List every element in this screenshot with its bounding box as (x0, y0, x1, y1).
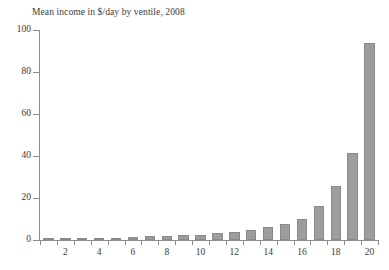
x-axis-tick (141, 241, 142, 245)
bar (331, 186, 341, 240)
bar (297, 219, 307, 240)
y-axis-tick-label: 0 (1, 235, 31, 245)
bar (77, 238, 87, 240)
bar (43, 238, 53, 240)
bar (178, 235, 188, 240)
x-axis-tick (327, 241, 328, 245)
x-axis-tick (158, 241, 159, 245)
x-axis-tick (91, 241, 92, 245)
y-axis-tick (33, 198, 39, 199)
bar (246, 230, 256, 240)
y-axis-tick (33, 72, 39, 73)
x-axis-tick-label: 20 (360, 247, 380, 257)
bar (195, 235, 205, 240)
x-axis-tick-label: 16 (292, 247, 312, 257)
x-axis-tick-label: 14 (258, 247, 278, 257)
x-axis-tick-label: 2 (55, 247, 75, 257)
y-axis-tick (33, 30, 39, 31)
x-axis-tick-label: 10 (191, 247, 211, 257)
x-axis-tick (310, 241, 311, 245)
bar (347, 153, 357, 240)
x-axis-tick (175, 241, 176, 245)
x-axis-tick (209, 241, 210, 245)
y-axis-tick-label: 60 (1, 109, 31, 119)
bar (128, 237, 138, 240)
bar (145, 236, 155, 240)
x-axis-tick (260, 241, 261, 245)
y-axis-tick-label: 80 (1, 67, 31, 77)
x-axis-tick (192, 241, 193, 245)
x-axis-tick-label: 8 (157, 247, 177, 257)
x-axis-tick (277, 241, 278, 245)
bar (60, 238, 70, 240)
bar (263, 227, 273, 240)
x-axis-tick (226, 241, 227, 245)
x-axis-tick (361, 241, 362, 245)
y-axis-tick (33, 114, 39, 115)
x-axis-tick (294, 241, 295, 245)
bar (364, 43, 374, 240)
y-axis-tick-label: 100 (1, 25, 31, 35)
bar (280, 224, 290, 240)
bar (229, 232, 239, 240)
x-axis-tick (243, 241, 244, 245)
x-axis-tick-label: 4 (89, 247, 109, 257)
bar (94, 238, 104, 240)
x-axis-tick (57, 241, 58, 245)
x-axis-tick (125, 241, 126, 245)
x-axis-tick (344, 241, 345, 245)
x-axis-tick-label: 18 (326, 247, 346, 257)
chart-container: Mean income in $/day by ventile, 2008 02… (0, 0, 389, 270)
y-axis-tick (33, 156, 39, 157)
x-axis-tick (108, 241, 109, 245)
bar (162, 236, 172, 240)
x-axis-tick (378, 241, 379, 245)
plot-area (40, 30, 378, 240)
x-axis-tick (74, 241, 75, 245)
y-axis-tick-label: 20 (1, 193, 31, 203)
bar (111, 238, 121, 240)
y-axis-tick-label: 40 (1, 151, 31, 161)
y-axis-tick (33, 240, 39, 241)
bar (314, 206, 324, 240)
x-axis-tick-label: 12 (224, 247, 244, 257)
chart-title: Mean income in $/day by ventile, 2008 (32, 7, 185, 17)
x-axis-tick-label: 6 (123, 247, 143, 257)
x-axis-tick (40, 241, 41, 245)
bar (212, 233, 222, 240)
